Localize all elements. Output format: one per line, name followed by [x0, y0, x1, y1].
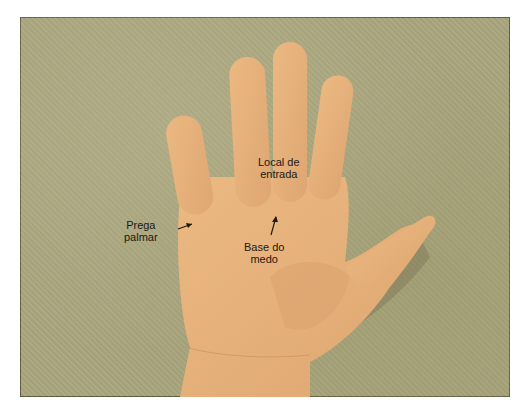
hand-illustration — [20, 17, 510, 397]
label-line: entrada — [258, 168, 300, 180]
label-line: palmar — [124, 231, 158, 243]
label-base-do-medo: Base do medo — [244, 241, 284, 265]
photo-frame: Local de entrada Prega palmar Base do me… — [20, 17, 510, 397]
finger-index — [163, 113, 216, 218]
label-prega-palmar: Prega palmar — [124, 219, 158, 243]
finger-little — [306, 73, 355, 201]
label-line: Base do — [244, 241, 284, 253]
label-line: Prega — [124, 219, 158, 231]
label-local-de-entrada: Local de entrada — [258, 156, 300, 180]
label-line: Local de — [258, 156, 300, 168]
label-line: medo — [244, 253, 284, 265]
